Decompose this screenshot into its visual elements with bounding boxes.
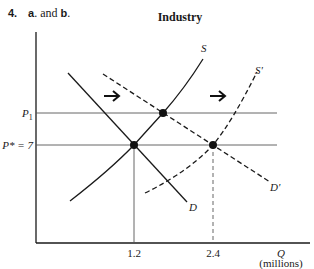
tick-q-2-4: 2.4	[206, 247, 220, 259]
label-d-prime: D'	[269, 181, 281, 193]
tick-q-1-2: 1.2	[127, 247, 141, 259]
shift-arrow-icon-1	[104, 91, 119, 101]
industry-diagram: S S' D D' P1 P* = 7 1.2 2.4 Q (millions)	[0, 0, 314, 269]
equilibrium-point-initial	[130, 141, 138, 149]
equilibrium-point-short-run	[159, 109, 167, 117]
demand-curve-d-prime	[103, 74, 270, 182]
demand-curve-d	[68, 73, 187, 202]
label-d: D	[188, 201, 197, 213]
label-s: S	[201, 42, 207, 54]
label-p1-sub: 1	[29, 113, 33, 122]
label-pstar: P* = 7	[1, 139, 33, 151]
x-axis-units: (millions)	[259, 257, 303, 269]
shift-arrow-icon-2	[210, 91, 225, 101]
equilibrium-point-long-run	[209, 141, 217, 149]
label-p1: P1	[21, 107, 33, 122]
label-s-prime: S'	[255, 64, 264, 76]
supply-curve-s	[70, 59, 203, 201]
